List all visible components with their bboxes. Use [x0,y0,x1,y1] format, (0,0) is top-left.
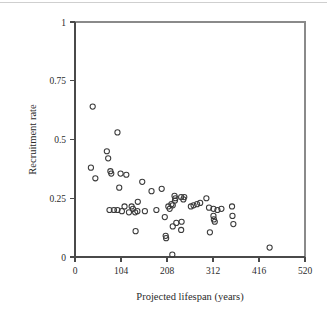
data-point [135,199,140,204]
data-point [124,172,129,177]
x-tick-label: 312 [206,266,221,276]
data-point [154,207,159,212]
data-point [198,200,203,205]
data-point [159,186,164,191]
x-tick-label: 416 [252,266,267,276]
data-point [229,204,234,209]
data-point [106,156,111,161]
x-tick-label: 520 [298,266,313,276]
y-axis-title: Recruitment rate [27,104,38,175]
x-axis-title: Projected lifespan (years) [136,291,244,303]
x-tick-label: 0 [73,266,78,276]
data-point [118,171,123,176]
data-point [115,130,120,135]
y-axis-tick-labels: 1 0.75 0.5 0.25 0 [49,18,66,263]
data-point [133,229,138,234]
y-tick-label: 0.75 [49,76,66,86]
data-point [142,209,147,214]
data-point [231,222,236,227]
y-axis-ticks [70,22,75,257]
data-point [179,219,184,224]
data-point [170,224,175,229]
data-point [149,189,154,194]
data-point [104,149,109,154]
data-point [90,104,95,109]
data-point [267,245,272,250]
scatter-plot: 1 0.75 0.5 0.25 0 0 104 208 312 416 520 [0,0,327,317]
y-tick-label: 0.25 [49,194,66,204]
y-tick-label: 1 [61,18,66,28]
data-point [88,165,93,170]
data-point [179,227,184,232]
x-tick-label: 208 [160,266,175,276]
data-point [126,210,131,215]
figure-container: 1 0.75 0.5 0.25 0 0 104 208 312 416 520 [0,0,327,317]
x-tick-label: 104 [114,266,129,276]
data-point [93,176,98,181]
y-tick-label: 0 [61,253,66,263]
data-point [140,179,145,184]
data-point [162,214,167,219]
data-point [230,213,235,218]
data-point-group [88,104,272,257]
data-point [207,230,212,235]
plot-frame [75,22,305,257]
data-point [204,196,209,201]
y-tick-label: 0.5 [54,135,66,145]
x-axis-tick-labels: 0 104 208 312 416 520 [73,266,313,276]
x-axis-ticks [75,257,305,262]
data-point [117,185,122,190]
